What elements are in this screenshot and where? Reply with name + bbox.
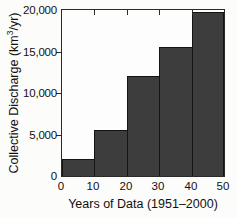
bar-20-30-years [127, 76, 160, 176]
y-tick-label: 20,000 [9, 4, 57, 16]
x-tick-label: 20 [113, 180, 139, 192]
bar-30-40-years [159, 47, 192, 176]
x-tick-label: 30 [145, 180, 171, 192]
y-axis-label-superscript: 3 [5, 31, 15, 36]
bar-40-50-years [192, 12, 224, 176]
y-tick-label: 15,000 [9, 46, 57, 58]
x-tick-label: 40 [178, 180, 204, 192]
y-tick-label: 5,000 [9, 129, 57, 141]
bar-10-20-years [94, 130, 127, 176]
top-tick-mark [94, 10, 95, 15]
x-tick-label: 0 [48, 180, 74, 192]
top-tick-mark [192, 10, 193, 15]
x-tick-label: 50 [210, 180, 236, 192]
top-tick-mark [159, 10, 160, 15]
y-tick-label: 10,000 [9, 87, 57, 99]
discharge-bar-chart: Collective Discharge (km3/yr) Years of D… [0, 0, 237, 218]
plot-area [61, 9, 225, 177]
bar-0-10-years [62, 159, 95, 176]
x-axis-label: Years of Data (1951–2000) [57, 197, 229, 211]
x-tick-label: 10 [80, 180, 106, 192]
top-tick-mark [127, 10, 128, 15]
